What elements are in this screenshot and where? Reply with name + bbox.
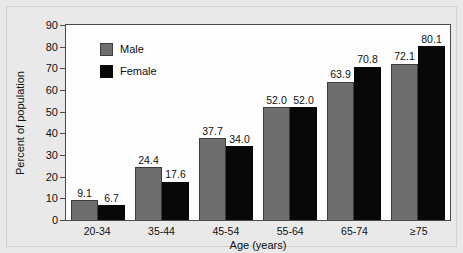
bar-slot: 17.6 [162, 25, 189, 220]
x-tick-label: 35-44 [129, 224, 193, 240]
bar-female[interactable] [354, 67, 381, 220]
y-tick-label: 0 [52, 215, 58, 226]
y-tick-label: 10 [46, 193, 58, 204]
bar-male[interactable] [327, 82, 354, 220]
bar-male[interactable] [391, 64, 418, 220]
legend-item-label: Male [120, 44, 144, 55]
bar-slot: 72.1 [391, 25, 418, 220]
y-tick-label: 30 [46, 150, 58, 161]
bar-female[interactable] [162, 182, 189, 220]
bar-value-label: 34.0 [229, 134, 249, 145]
plot-frame: 0102030405060708090 9.16.724.417.637.734… [65, 24, 451, 221]
bar-value-label: 70.8 [357, 54, 377, 65]
bar-slot: 52.0 [263, 25, 290, 220]
bar-value-label: 72.1 [394, 51, 414, 62]
bar-female[interactable] [418, 46, 445, 220]
bar-slot: 34.0 [226, 25, 253, 220]
bar-value-label: 6.7 [104, 193, 119, 204]
bar-female[interactable] [98, 205, 125, 220]
y-tick-label: 50 [46, 106, 58, 117]
x-tick-label: 45-54 [194, 224, 258, 240]
bar-slot: 80.1 [418, 25, 445, 220]
legend-item-label: Female [120, 66, 157, 77]
bar-slot: 9.1 [71, 25, 98, 220]
bar-group: 63.970.8 [322, 25, 386, 220]
bar-male[interactable] [71, 200, 98, 220]
bar-group: 52.052.0 [258, 25, 322, 220]
y-tick-mark [60, 220, 66, 221]
y-tick-label: 80 [46, 41, 58, 52]
bar-slot: 70.8 [354, 25, 381, 220]
bar-group: 72.180.1 [386, 25, 450, 220]
bar-value-label: 63.9 [330, 69, 350, 80]
y-tick-label: 60 [46, 85, 58, 96]
legend-item[interactable]: Female [100, 65, 157, 78]
bar-slot: 37.7 [199, 25, 226, 220]
bar-value-label: 52.0 [293, 95, 313, 106]
bar-value-label: 9.1 [77, 188, 92, 199]
y-axis-title-text: Percent of population [14, 71, 26, 175]
bar-value-label: 24.4 [138, 155, 158, 166]
x-axis-title: Age (years) [65, 239, 451, 251]
plot-area: 0102030405060708090 9.16.724.417.637.734… [66, 25, 450, 220]
female-swatch [100, 65, 113, 78]
x-tick-label: ≥75 [387, 224, 451, 240]
legend-item[interactable]: Male [100, 43, 157, 56]
y-axis-title: Percent of population [13, 24, 27, 221]
y-tick-label: 90 [46, 20, 58, 31]
x-axis-tick-labels: 20-3435-4445-5455-6465-74≥75 [65, 224, 451, 240]
bar-male[interactable] [135, 167, 162, 220]
bar-male[interactable] [199, 138, 226, 220]
bar-group: 37.734.0 [194, 25, 258, 220]
bar-male[interactable] [263, 107, 290, 220]
x-tick-label: 20-34 [65, 224, 129, 240]
bar-value-label: 17.6 [165, 169, 185, 180]
x-tick-label: 65-74 [322, 224, 386, 240]
y-tick-label: 20 [46, 171, 58, 182]
bar-value-label: 52.0 [266, 95, 286, 106]
bar-value-label: 80.1 [421, 34, 441, 45]
male-swatch [100, 43, 113, 56]
y-tick-label: 40 [46, 128, 58, 139]
bar-value-label: 37.7 [202, 126, 222, 137]
y-tick-label: 70 [46, 63, 58, 74]
bar-slot: 63.9 [327, 25, 354, 220]
figure-border: Percent of population 010203040506070809… [6, 6, 457, 247]
figure-canvas: Percent of population 010203040506070809… [0, 0, 463, 253]
bar-slot: 52.0 [290, 25, 317, 220]
chart-legend: MaleFemale [100, 43, 157, 87]
bar-female[interactable] [226, 146, 253, 220]
bar-female[interactable] [290, 107, 317, 220]
x-tick-label: 55-64 [258, 224, 322, 240]
